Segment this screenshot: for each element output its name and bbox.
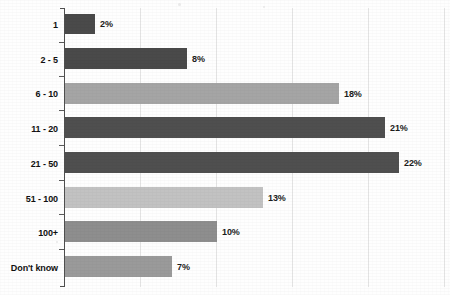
axis-tick [59, 76, 64, 77]
axis-tick [59, 42, 64, 43]
bar-4 [65, 152, 399, 173]
bar-row-1: 8% [65, 48, 450, 69]
bar-chart: 1 2% 2 - 5 8% 6 - 10 18% 11 - 20 21% 21 … [0, 0, 450, 295]
category-label-3: 11 - 20 [31, 124, 58, 134]
bar-6 [65, 221, 217, 242]
bar-row-7: 7% [65, 256, 450, 277]
axis-tick [59, 110, 64, 111]
bar-row-2: 18% [65, 83, 450, 104]
category-label-0: 1 [53, 20, 58, 30]
bar-value-label-3: 21% [390, 123, 408, 133]
category-label-6: 100+ [38, 228, 58, 238]
bar-0 [65, 14, 95, 34]
bar-value-label-5: 13% [268, 193, 286, 203]
axis-tick [59, 214, 64, 215]
bar-row-3: 21% [65, 117, 450, 138]
bar-row-0: 2% [65, 14, 450, 34]
bar-5 [65, 187, 263, 208]
bar-value-label-7: 7% [177, 262, 190, 272]
category-label-4: 21 - 50 [31, 159, 58, 169]
bar-value-label-4: 22% [404, 158, 422, 168]
bar-1 [65, 48, 187, 69]
bar-value-label-0: 2% [100, 19, 113, 29]
category-label-1: 2 - 5 [40, 55, 58, 65]
bar-7 [65, 256, 172, 277]
scan-speck [263, 6, 265, 8]
axis-tick [59, 249, 64, 250]
bar-value-label-6: 10% [222, 227, 240, 237]
axis-cap-bottom [60, 286, 65, 287]
category-label-5: 51 - 100 [26, 194, 58, 204]
bar-value-label-2: 18% [344, 89, 362, 99]
axis-cap-top [60, 8, 65, 9]
bar-3 [65, 117, 385, 138]
category-label-2: 6 - 10 [36, 89, 58, 99]
scan-speck [178, 3, 181, 6]
bar-row-5: 13% [65, 187, 450, 208]
category-label-7: Don't know [11, 263, 58, 273]
scan-speck [56, 241, 58, 243]
bar-row-6: 10% [65, 221, 450, 242]
axis-tick [59, 145, 64, 146]
bar-2 [65, 83, 339, 104]
axis-tick [59, 180, 64, 181]
bar-row-4: 22% [65, 152, 450, 173]
bar-value-label-1: 8% [192, 54, 205, 64]
